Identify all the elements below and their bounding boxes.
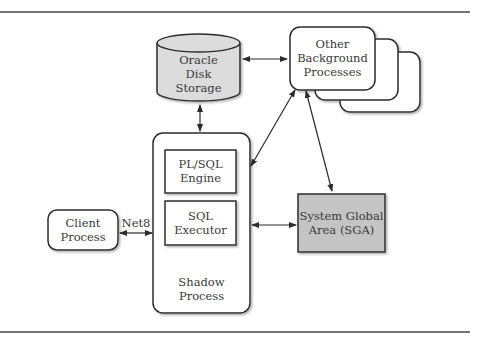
sqlexec-label-line1: SQL	[165, 209, 236, 223]
disk-label-line2: Disk	[157, 67, 240, 81]
client-label-line2: Process	[48, 230, 118, 244]
client-label-line1: Client	[48, 216, 118, 230]
sql-executor-label: SQL Executor	[165, 209, 236, 237]
sqlexec-label-line2: Executor	[165, 223, 236, 237]
shadow-label-line2: Process	[153, 289, 250, 303]
arrow-background-sga	[306, 91, 332, 191]
shadow-label-line1: Shadow	[153, 275, 250, 289]
background-processes-label: Other Background Processes	[290, 37, 375, 79]
disk-storage-label: Oracle Disk Storage	[157, 53, 240, 95]
plsql-engine-label: PL/SQL Engine	[165, 157, 236, 185]
shadow-process-label: Shadow Process	[153, 275, 250, 303]
sga-label-line1: System Global	[298, 209, 385, 223]
background-label-line2: Background	[290, 51, 375, 65]
client-process-label: Client Process	[48, 216, 118, 244]
sga-label: System Global Area (SGA)	[298, 209, 385, 237]
plsql-label-line1: PL/SQL	[165, 157, 236, 171]
disk-label-line3: Storage	[157, 81, 240, 95]
sga-label-line2: Area (SGA)	[298, 223, 385, 237]
background-label-line3: Processes	[290, 65, 375, 79]
disk-label-line1: Oracle	[157, 53, 240, 67]
arrow-shadow-background	[251, 90, 295, 166]
background-label-line1: Other	[290, 37, 375, 51]
net8-label: Net8	[118, 216, 154, 230]
plsql-label-line2: Engine	[165, 171, 236, 185]
